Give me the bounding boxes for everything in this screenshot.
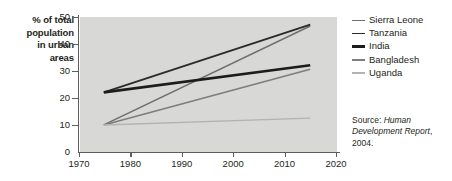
urban-population-line-chart: % of total population in urban areas 50 …	[0, 0, 452, 181]
legend-item-bangladesh: Bangladesh	[352, 54, 452, 67]
legend-swatch-bangladesh	[352, 59, 365, 61]
legend-item-india: India	[352, 40, 452, 53]
series-line-sierra-leone	[104, 26, 310, 125]
legend-item-sierra-leone: Sierra Leone	[352, 14, 452, 27]
legend-label-uganda: Uganda	[369, 67, 402, 80]
legend: Sierra LeoneTanzaniaIndiaBangladeshUgand…	[352, 14, 452, 80]
series-line-uganda	[104, 118, 310, 125]
legend-label-india: India	[369, 40, 390, 53]
source-prefix: Source:	[352, 115, 384, 125]
legend-label-sierra-leone: Sierra Leone	[369, 14, 423, 27]
series-line-india	[104, 65, 310, 92]
legend-item-tanzania: Tanzania	[352, 27, 452, 40]
legend-label-bangladesh: Bangladesh	[369, 54, 419, 67]
series-line-tanzania	[104, 25, 310, 93]
legend-item-uganda: Uganda	[352, 67, 452, 80]
legend-swatch-uganda	[352, 72, 365, 74]
legend-label-tanzania: Tanzania	[369, 27, 407, 40]
legend-swatch-sierra-leone	[352, 20, 365, 22]
legend-swatch-india	[352, 45, 365, 48]
legend-swatch-tanzania	[352, 33, 365, 35]
source-note: Source: Human Development Report, 2004.	[352, 115, 448, 149]
